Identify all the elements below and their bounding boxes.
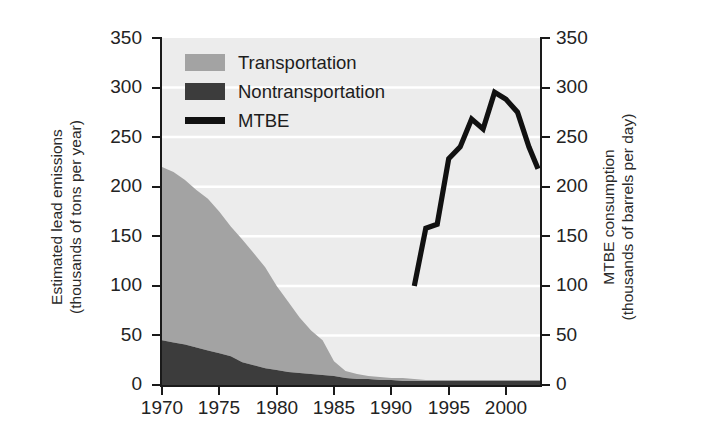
legend-swatch-nontransportation (185, 83, 225, 100)
y-left-tick-300: 300 (90, 76, 142, 98)
y-left-tickmark-50 (152, 334, 160, 336)
y-right-tick-350: 350 (556, 27, 608, 49)
y-right-tick-0: 0 (556, 373, 608, 395)
y-left-tickmark-0 (152, 384, 160, 386)
legend-label-mtbe: MTBE (238, 110, 289, 132)
y-left-tickmark-250 (152, 136, 160, 138)
y-axis-left-line (160, 37, 162, 387)
y-left-tickmark-200 (152, 186, 160, 188)
y-right-tick-100: 100 (556, 274, 608, 296)
x-tick-1990: 1990 (361, 397, 421, 419)
legend-swatch-mtbe (185, 117, 225, 124)
y-right-tickmark-0 (542, 384, 550, 386)
y-right-tick-150: 150 (556, 225, 608, 247)
x-tickmark-2000 (505, 387, 507, 395)
x-tickmark-1995 (448, 387, 450, 395)
x-tickmark-1985 (333, 387, 335, 395)
y-right-tick-200: 200 (556, 175, 608, 197)
y-axis-right-title-line1: MTBE consumption (599, 67, 618, 367)
x-tickmark-1975 (218, 387, 220, 395)
y-left-tick-0: 0 (90, 373, 142, 395)
legend-label-transportation: Transportation (238, 52, 357, 74)
legend-item-mtbe: MTBE (185, 106, 485, 135)
y-right-tickmark-350 (542, 37, 550, 39)
legend-item-transportation: Transportation (185, 48, 485, 77)
y-right-tick-300: 300 (556, 76, 608, 98)
y-left-tick-150: 150 (90, 225, 142, 247)
y-right-tickmark-200 (542, 186, 550, 188)
y-left-tickmark-300 (152, 87, 160, 89)
x-tick-2000: 2000 (476, 397, 536, 419)
chart-legend: Transportation Nontransportation MTBE (185, 48, 485, 135)
y-axis-left-title: Estimated lead emissions (thousands of t… (47, 67, 85, 367)
x-tickmark-1990 (390, 387, 392, 395)
y-axis-right-title-line2: (thousands of barrels per day) (618, 67, 637, 367)
y-left-tickmark-350 (152, 37, 160, 39)
x-tick-1995: 1995 (419, 397, 479, 419)
y-left-tickmark-100 (152, 285, 160, 287)
y-right-tick-50: 50 (556, 324, 608, 346)
legend-swatch-transportation (185, 54, 225, 71)
legend-label-nontransportation: Nontransportation (238, 81, 385, 103)
chart-figure: Estimated lead emissions (thousands of t… (0, 0, 702, 443)
y-left-tick-200: 200 (90, 175, 142, 197)
x-tick-1980: 1980 (247, 397, 307, 419)
y-right-tickmark-250 (542, 136, 550, 138)
y-left-tickmark-150 (152, 235, 160, 237)
y-left-tick-50: 50 (90, 324, 142, 346)
plot-area: Transportation Nontransportation MTBE (162, 38, 540, 385)
y-axis-right-title: MTBE consumption (thousands of barrels p… (599, 67, 637, 367)
x-tick-1985: 1985 (304, 397, 364, 419)
area-transportation (162, 167, 540, 381)
y-left-tick-100: 100 (90, 274, 142, 296)
y-right-tickmark-300 (542, 87, 550, 89)
y-right-tickmark-100 (542, 285, 550, 287)
y-right-tickmark-50 (542, 334, 550, 336)
y-axis-left-title-line2: (thousands of tons per year) (66, 67, 85, 367)
y-right-tickmark-150 (542, 235, 550, 237)
x-tickmark-1970 (161, 387, 163, 395)
x-tick-1970: 1970 (132, 397, 192, 419)
legend-item-nontransportation: Nontransportation (185, 77, 485, 106)
y-left-tick-250: 250 (90, 126, 142, 148)
y-right-tick-250: 250 (556, 126, 608, 148)
y-axis-left-title-line1: Estimated lead emissions (47, 67, 66, 367)
y-left-tick-350: 350 (90, 27, 142, 49)
x-tickmark-1980 (276, 387, 278, 395)
x-tick-1975: 1975 (189, 397, 249, 419)
